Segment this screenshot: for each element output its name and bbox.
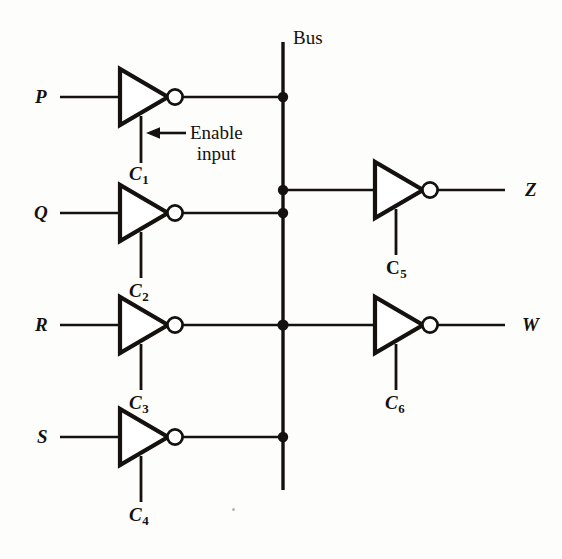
scan-speck (232, 508, 235, 511)
input-label-r: R (35, 315, 48, 334)
buffer-gate-c1 (120, 69, 168, 125)
buffer-gate-c2 (120, 185, 168, 241)
control-label-c2: C2 (129, 281, 149, 304)
input-label-p: P (35, 87, 47, 106)
enable-input-annotation: Enable input (190, 122, 243, 165)
output-label-z: Z (525, 180, 537, 199)
buffer-gate-c6 (375, 297, 423, 353)
circuit-figure: Bus P Q R S Z W C1 C2 C3 C4 C5 C6 Enable… (0, 0, 562, 559)
enable-input-arrow-icon (146, 127, 186, 139)
inversion-bubble-c1 (167, 89, 182, 104)
control-label-c3: C3 (129, 393, 149, 416)
buffer-gate-c5 (375, 162, 423, 218)
inversion-bubble-c2 (167, 205, 182, 220)
output-label-w: W (522, 315, 539, 334)
bus-label: Bus (293, 28, 323, 47)
control-label-c5: C5 (386, 258, 407, 281)
inversion-bubble-c6 (422, 317, 437, 332)
buffer-gate-c4 (120, 409, 168, 465)
enable-annotation-line1: Enable (190, 122, 243, 143)
buffer-gate-c3 (120, 297, 168, 353)
control-label-c1: C1 (129, 164, 149, 187)
inversion-bubble-c5 (422, 182, 437, 197)
bus-junction-c5 (278, 185, 288, 195)
control-label-c4: C4 (129, 505, 149, 528)
input-label-q: Q (34, 203, 48, 222)
schematic-canvas (0, 0, 562, 559)
control-label-c6: C6 (385, 393, 405, 416)
input-label-s: S (37, 427, 48, 446)
enable-annotation-line2: input (190, 143, 243, 164)
inversion-bubble-c3 (167, 317, 182, 332)
inversion-bubble-c4 (167, 429, 182, 444)
bus-junction-s (278, 432, 288, 442)
bus-junction-q (278, 208, 288, 218)
bus-junction-p (278, 92, 288, 102)
bus-junction-r (277, 319, 288, 330)
